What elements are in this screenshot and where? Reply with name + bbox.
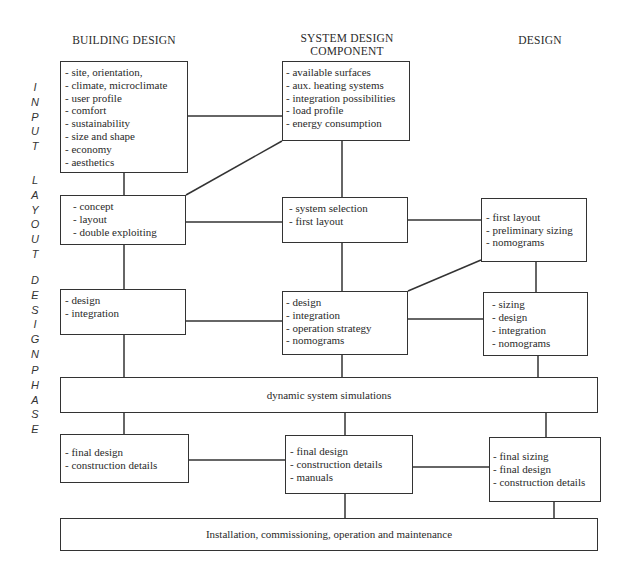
- letter: T: [28, 139, 42, 154]
- letter: A: [28, 188, 42, 203]
- column-heading-system-line2: COMPONENT: [282, 45, 412, 58]
- simulations-label: dynamic system simulations: [267, 389, 392, 402]
- box-layout-system: - system selection - first layout: [282, 197, 408, 243]
- item: - load profile: [286, 104, 405, 117]
- letter: E: [28, 288, 42, 303]
- item: - sustainability: [65, 117, 183, 130]
- letter: T: [28, 247, 42, 262]
- item: - aesthetics: [65, 156, 183, 169]
- item: - first layout: [486, 211, 582, 224]
- letter: I: [28, 317, 42, 332]
- item: - concept: [73, 200, 181, 213]
- item: - climate, microclimate: [65, 79, 183, 92]
- item: - available surfaces: [286, 66, 405, 79]
- box-design-design: - sizing - design - integration - nomogr…: [483, 292, 588, 356]
- letter: O: [28, 217, 42, 232]
- item: - manuals: [290, 471, 408, 484]
- item: - final design: [65, 446, 184, 459]
- item: - layout: [73, 213, 181, 226]
- item: - construction details: [65, 459, 184, 472]
- item: - integration possibilities: [286, 92, 405, 105]
- column-heading-design: DESIGN: [490, 34, 590, 47]
- letter: N: [28, 95, 42, 110]
- item: - integration: [286, 309, 403, 322]
- item: - final design: [290, 445, 408, 458]
- column-heading-system-line1: SYSTEM DESIGN: [282, 32, 412, 45]
- box-design-building: - design - integration: [60, 289, 186, 335]
- box-final-design: - final sizing - final design - construc…: [489, 437, 601, 502]
- letter: U: [28, 232, 42, 247]
- letter: N: [28, 347, 42, 362]
- letter: U: [28, 124, 42, 139]
- phase-label-phase: P H A S E: [28, 363, 42, 437]
- item: - construction details: [493, 476, 596, 489]
- letter: I: [28, 80, 42, 95]
- letter: Y: [28, 203, 42, 218]
- installation-label: Installation, commissioning, operation a…: [206, 528, 452, 541]
- item: - site, orientation,: [65, 66, 183, 79]
- phase-label-design: D E S I G N: [28, 273, 42, 362]
- letter: P: [28, 110, 42, 125]
- item: - user profile: [65, 92, 183, 105]
- item: - nomograms: [486, 236, 582, 249]
- box-layout-design: - first layout - preliminary sizing - no…: [481, 198, 587, 262]
- item: - construction details: [290, 458, 408, 471]
- box-dynamic-simulations: dynamic system simulations: [60, 377, 598, 413]
- box-final-system: - final design - construction details - …: [285, 435, 413, 494]
- box-design-system: - design - integration - operation strat…: [282, 291, 408, 355]
- box-final-building: - final design - construction details: [60, 434, 189, 483]
- item: - size and shape: [65, 130, 183, 143]
- item: - integration: [65, 307, 181, 320]
- letter: E: [28, 422, 42, 437]
- item: - design: [65, 294, 181, 307]
- item: - final sizing: [493, 450, 596, 463]
- letter: A: [28, 393, 42, 408]
- phase-label-layout: L A Y O U T: [28, 173, 42, 262]
- box-layout-building: - concept - layout - double exploiting: [60, 195, 186, 245]
- item: - sizing: [492, 298, 583, 311]
- phase-label-input: I N P U T: [28, 80, 42, 154]
- item: - integration: [492, 324, 583, 337]
- item: - first layout: [289, 215, 403, 228]
- item: - final design: [493, 463, 596, 476]
- letter: S: [28, 407, 42, 422]
- box-input-system: - available surfaces - aux. heating syst…: [282, 61, 410, 141]
- item: - nomograms: [286, 334, 403, 347]
- letter: D: [28, 273, 42, 288]
- letter: L: [28, 173, 42, 188]
- item: - preliminary sizing: [486, 224, 582, 237]
- item: - comfort: [65, 104, 183, 117]
- item: - operation strategy: [286, 322, 403, 335]
- letter: P: [28, 363, 42, 378]
- box-input-building: - site, orientation, - climate, microcli…: [60, 61, 188, 173]
- letter: S: [28, 303, 42, 318]
- column-heading-building-design: BUILDING DESIGN: [60, 34, 188, 47]
- column-heading-system-design: SYSTEM DESIGN COMPONENT: [282, 32, 412, 58]
- item: - nomograms: [492, 337, 583, 350]
- item: - energy consumption: [286, 117, 405, 130]
- letter: H: [28, 378, 42, 393]
- item: - design: [492, 311, 583, 324]
- item: - aux. heating systems: [286, 79, 405, 92]
- item: - system selection: [289, 202, 403, 215]
- item: - design: [286, 296, 403, 309]
- letter: G: [28, 332, 42, 347]
- item: - double exploiting: [73, 226, 181, 239]
- box-installation: Installation, commissioning, operation a…: [60, 518, 598, 551]
- item: - economy: [65, 143, 183, 156]
